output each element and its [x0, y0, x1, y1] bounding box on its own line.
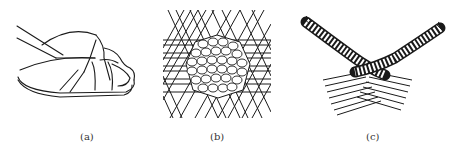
figure: (a): [0, 0, 458, 158]
crossed-braid-illustration: [0, 0, 458, 158]
panel-label-c: (c): [366, 131, 379, 142]
